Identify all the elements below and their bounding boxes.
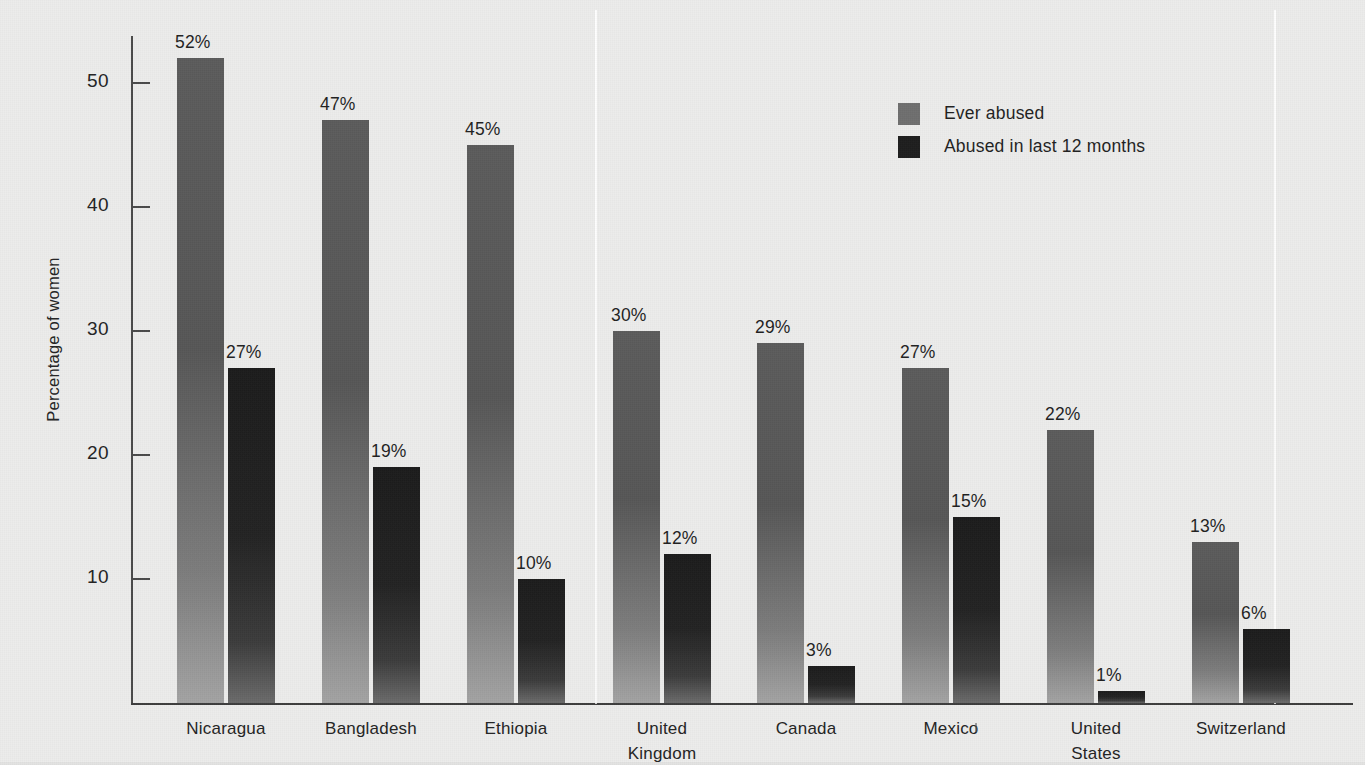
- x-category-label-united-states: UnitedStates: [1016, 716, 1176, 765]
- bar-value-label: 30%: [611, 305, 666, 326]
- x-category-label-canada: Canada: [726, 716, 886, 741]
- x-category-label-switzerland: Switzerland: [1161, 716, 1321, 741]
- bar-switzerland-ever-abused: [1192, 542, 1239, 703]
- bar-value-label: 12%: [662, 528, 717, 549]
- bar-switzerland-last-12-months: [1243, 629, 1290, 703]
- bar-united-kingdom-ever-abused: [613, 331, 660, 703]
- bar-united-states-ever-abused: [1047, 430, 1094, 703]
- y-tick-30: [133, 330, 150, 332]
- y-tick-20: [133, 454, 150, 456]
- bar-value-label: 45%: [465, 119, 520, 140]
- y-tick-label-40: 40: [65, 194, 109, 216]
- category-label-line1: United: [582, 716, 742, 741]
- scan-artifact-mark: [975, 723, 977, 732]
- category-label-line1: Bangladesh: [291, 716, 451, 741]
- bar-bangladesh-ever-abused: [322, 120, 369, 703]
- x-category-label-bangladesh: Bangladesh: [291, 716, 451, 741]
- bar-united-states-last-12-months: [1098, 691, 1145, 703]
- bar-value-label: 13%: [1190, 516, 1245, 537]
- y-axis-title: Percentage of women: [44, 240, 63, 440]
- bar-value-label: 10%: [516, 553, 571, 574]
- group-separator-right: [1274, 10, 1276, 704]
- y-axis-line: [131, 36, 133, 704]
- legend-label-ever-abused: Ever abused: [944, 103, 1044, 124]
- plot-area: Percentage of women 5040302010 52%47%45%…: [0, 0, 1365, 765]
- chart-legend: Ever abused Abused in last 12 months: [898, 97, 1145, 163]
- category-label-line1: Canada: [726, 716, 886, 741]
- x-category-label-united-kingdom: UnitedKingdom: [582, 716, 742, 765]
- x-category-label-mexico: Mexico: [871, 716, 1031, 741]
- bar-value-label: 52%: [175, 32, 230, 53]
- bar-value-label: 3%: [806, 640, 861, 661]
- bar-value-label: 15%: [951, 491, 1006, 512]
- category-label-line1: Switzerland: [1161, 716, 1321, 741]
- bar-chart-figure: Percentage of women 5040302010 52%47%45%…: [0, 0, 1365, 765]
- bar-value-label: 1%: [1096, 665, 1151, 686]
- legend-item-abused-last-12-months: Abused in last 12 months: [898, 130, 1145, 163]
- group-separator-left: [595, 10, 597, 704]
- bar-value-label: 19%: [371, 441, 426, 462]
- bar-bangladesh-last-12-months: [373, 467, 420, 703]
- category-label-line1: Nicaragua: [146, 716, 306, 741]
- bar-nicaragua-ever-abused: [177, 58, 224, 703]
- bar-value-label: 22%: [1045, 404, 1100, 425]
- category-label-line1: Ethiopia: [436, 716, 596, 741]
- y-tick-label-10: 10: [65, 566, 109, 588]
- legend-swatch-abused-last-12-months-icon: [898, 136, 920, 158]
- bar-canada-ever-abused: [757, 343, 804, 703]
- x-axis-line: [131, 703, 1353, 705]
- bar-value-label: 27%: [900, 342, 955, 363]
- y-tick-50: [133, 82, 150, 84]
- category-label-line1: United: [1016, 716, 1176, 741]
- bar-mexico-last-12-months: [953, 517, 1000, 703]
- y-tick-label-20: 20: [65, 442, 109, 464]
- bar-ethiopia-last-12-months: [518, 579, 565, 703]
- bar-value-label: 29%: [755, 317, 810, 338]
- bar-united-kingdom-last-12-months: [664, 554, 711, 703]
- bar-canada-last-12-months: [808, 666, 855, 703]
- bar-ethiopia-ever-abused: [467, 145, 514, 703]
- y-tick-10: [133, 578, 150, 580]
- bar-value-label: 6%: [1241, 603, 1296, 624]
- bar-nicaragua-last-12-months: [228, 368, 275, 703]
- category-label-line1: Mexico: [871, 716, 1031, 741]
- y-tick-label-50: 50: [65, 70, 109, 92]
- x-category-label-ethiopia: Ethiopia: [436, 716, 596, 741]
- bar-mexico-ever-abused: [902, 368, 949, 703]
- legend-label-abused-last-12-months: Abused in last 12 months: [944, 136, 1145, 157]
- legend-swatch-ever-abused-icon: [898, 103, 920, 125]
- bar-value-label: 47%: [320, 94, 375, 115]
- y-tick-label-30: 30: [65, 318, 109, 340]
- x-category-label-nicaragua: Nicaragua: [146, 716, 306, 741]
- bar-value-label: 27%: [226, 342, 281, 363]
- legend-item-ever-abused: Ever abused: [898, 97, 1145, 130]
- y-tick-40: [133, 206, 150, 208]
